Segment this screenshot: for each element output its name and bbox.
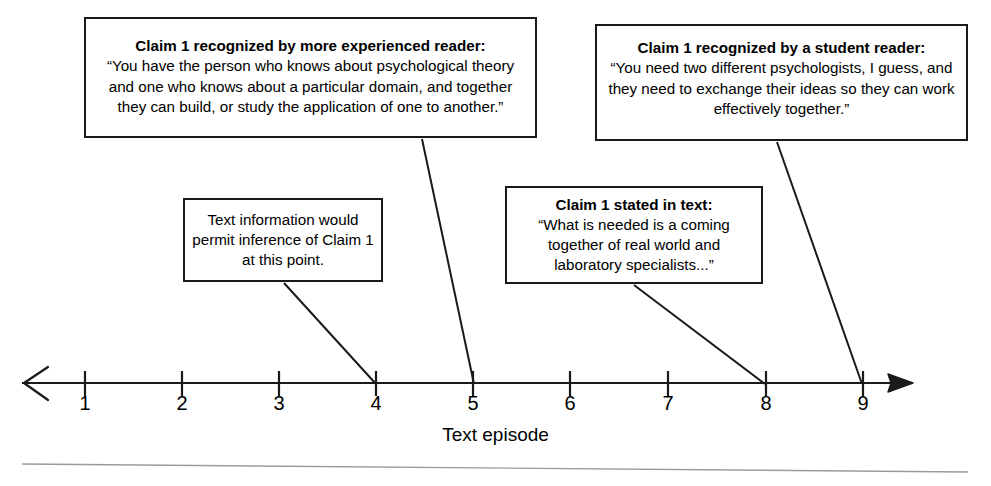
callout-experienced-reader-quote: “You have the person who knows about psy… (94, 56, 527, 116)
axis-tick-label-5: 5 (453, 392, 493, 415)
axis-tick-label-9: 9 (843, 392, 883, 415)
callout-claim-stated: Claim 1 stated in text: “What is needed … (505, 186, 763, 284)
axis-tick-label-4: 4 (356, 392, 396, 415)
axis-right-arrowhead-icon (888, 374, 913, 392)
bottom-divider-rule (22, 464, 968, 472)
callout-student-reader: Claim 1 recognized by a student reader: … (595, 24, 968, 141)
leader-line-student-reader (777, 142, 862, 384)
leader-line-experienced-reader (422, 139, 474, 384)
callout-experienced-reader-title: Claim 1 recognized by more experienced r… (94, 36, 527, 56)
axis-tick-label-7: 7 (648, 392, 688, 415)
axis-tick-label-2: 2 (162, 392, 202, 415)
axis-tick-label-8: 8 (746, 392, 786, 415)
axis-tick-label-3: 3 (259, 392, 299, 415)
axis-caption: Text episode (0, 424, 991, 446)
callout-claim-stated-title: Claim 1 stated in text: (513, 195, 755, 215)
leader-line-text-inference (284, 283, 376, 384)
timeline-figure: Claim 1 recognized by more experienced r… (0, 0, 991, 486)
callout-experienced-reader: Claim 1 recognized by more experienced r… (84, 17, 537, 138)
callout-text-inference-quote: Text information would permit inference … (191, 210, 375, 270)
axis-tick-label-1: 1 (65, 392, 105, 415)
axis-tick-label-6: 6 (550, 392, 590, 415)
callout-claim-stated-quote: “What is needed is a coming together of … (513, 215, 755, 275)
callout-student-reader-quote: “You need two different psychologists, I… (604, 58, 959, 118)
leader-line-claim-stated (634, 285, 765, 384)
callout-text-inference: Text information would permit inference … (183, 198, 383, 282)
callout-student-reader-title: Claim 1 recognized by a student reader: (604, 38, 959, 58)
